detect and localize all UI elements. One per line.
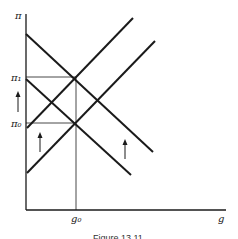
downward-line-lower: [26, 79, 131, 175]
diagram-canvas: π π₁ π₀ g₀ g Figure 13.11: [0, 0, 238, 239]
up-arrow-icon: [38, 132, 43, 152]
downward-line-upper: [26, 34, 153, 152]
pi0-label: π₀: [10, 118, 22, 129]
figure-caption: Figure 13.11: [93, 233, 143, 239]
up-arrow-icon: [16, 91, 21, 112]
pi1-label: π₁: [10, 72, 22, 83]
y-axis-label: π: [14, 10, 22, 21]
up-arrow-icon: [123, 139, 128, 159]
g0-label: g₀: [71, 213, 81, 224]
upward-line-upper: [27, 18, 133, 128]
x-axis-label: g: [218, 213, 224, 224]
